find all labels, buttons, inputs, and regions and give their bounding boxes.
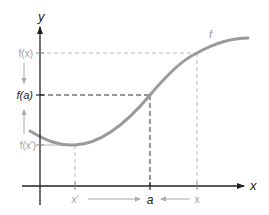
x-tick-label-xprime: x' bbox=[71, 194, 80, 205]
y-tick-label-fxprime: f(x') bbox=[20, 140, 36, 151]
continuity-diagram: y x f f(x) f(a) f(x') x' a x bbox=[0, 0, 269, 215]
x-tick-label-a: a bbox=[147, 193, 154, 207]
x-tick-label-x: x bbox=[195, 194, 200, 205]
y-axis-label: y bbox=[37, 9, 46, 24]
guide-lines bbox=[40, 53, 197, 186]
y-tick-label-fa: f(a) bbox=[17, 89, 34, 101]
x-axis-label: x bbox=[249, 178, 257, 193]
curve-label-f: f bbox=[209, 28, 213, 40]
function-curve bbox=[30, 38, 248, 145]
y-tick-label-fx: f(x) bbox=[19, 48, 33, 59]
